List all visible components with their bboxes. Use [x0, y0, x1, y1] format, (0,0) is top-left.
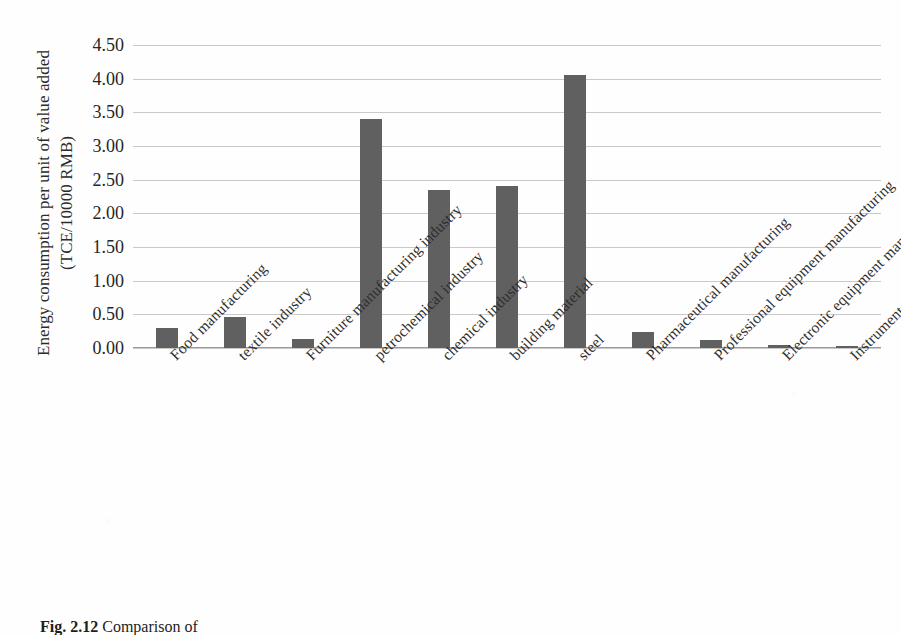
y-tick-label: 1.00: [58, 272, 124, 290]
y-tick-label: 3.50: [58, 103, 124, 121]
figure-caption: Fig. 2.12 Comparison of: [40, 617, 880, 635]
bar-slot: [133, 45, 201, 348]
y-tick-label: 2.50: [58, 171, 124, 189]
y-tick-label: 4.00: [58, 70, 124, 88]
bar-slot: [609, 45, 677, 348]
bar: [496, 186, 517, 348]
y-tick-label: 2.00: [58, 204, 124, 222]
caption-text: Comparison of: [102, 618, 198, 635]
caption-figure-number: Fig. 2.12: [40, 618, 98, 635]
y-tick-label: 0.50: [58, 305, 124, 323]
y-tick-label: 0.00: [58, 339, 124, 357]
y-tick-label: 1.50: [58, 238, 124, 256]
y-tick-label: 3.00: [58, 137, 124, 155]
figure-page: Energy consumption per unit of value add…: [0, 0, 901, 635]
x-axis-category-labels: Food manufacturingtextile industryFurnit…: [133, 352, 881, 582]
y-tick-label: 4.50: [58, 36, 124, 54]
y-axis-tick-labels: 0.000.501.001.502.002.503.003.504.004.50: [58, 0, 124, 635]
